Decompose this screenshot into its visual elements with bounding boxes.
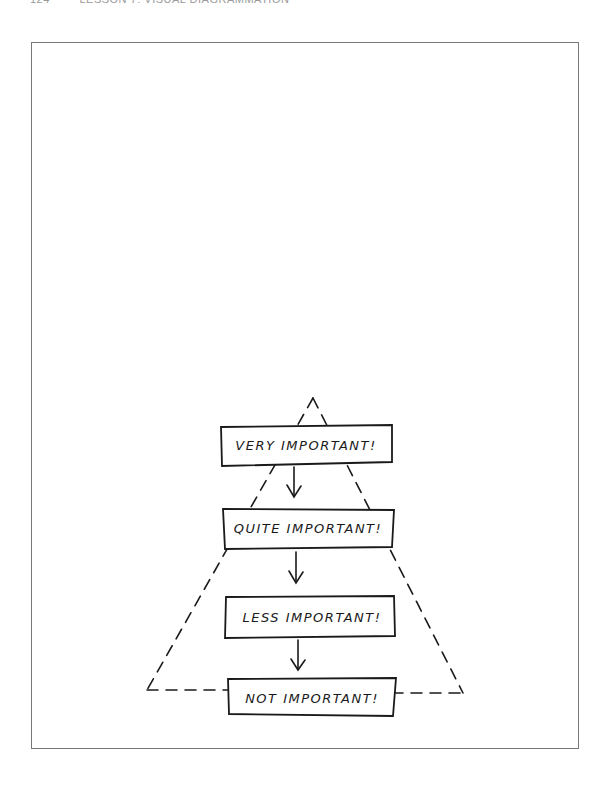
box-label: LESS IMPORTANT! — [243, 610, 382, 625]
arrow-down-icon — [291, 640, 305, 670]
box-very-important: VERY IMPORTANT! — [221, 425, 392, 466]
box-not-important: NOT IMPORTANT! — [228, 678, 396, 716]
box-label: VERY IMPORTANT! — [235, 438, 376, 453]
arrow-down-icon — [287, 467, 301, 497]
box-label: NOT IMPORTANT! — [245, 691, 379, 706]
arrow-down-icon — [289, 552, 303, 583]
box-quite-important: QUITE IMPORTANT! — [223, 509, 394, 549]
importance-pyramid-diagram: VERY IMPORTANT! QUITE IMPORTANT! LESS IM… — [0, 0, 611, 788]
box-less-important: LESS IMPORTANT! — [225, 596, 395, 638]
box-label: QUITE IMPORTANT! — [234, 521, 383, 536]
